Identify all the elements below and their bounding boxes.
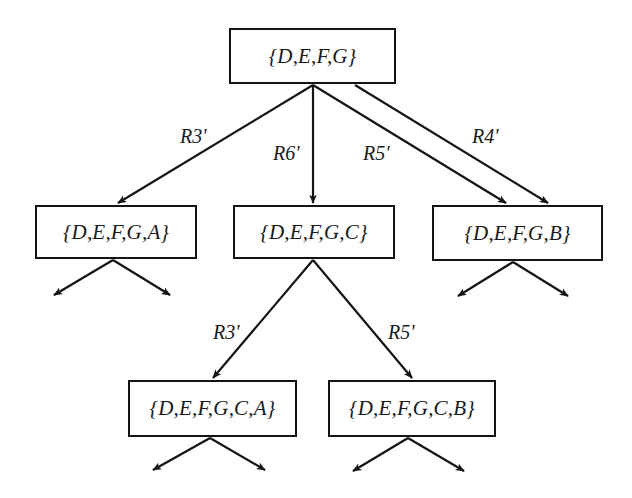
node-cb: {D,E,F,G,C,B}: [328, 380, 496, 437]
edge-label-r3-bottom: R3': [213, 322, 240, 342]
stub-ca-right: [210, 438, 265, 470]
node-cb-label: {D,E,F,G,C,B}: [349, 396, 475, 421]
edge-label-r3-top: R3': [180, 126, 207, 146]
stub-b-right: [513, 262, 568, 296]
node-b: {D,E,F,G,B}: [432, 205, 603, 261]
stub-a-right: [113, 260, 170, 295]
node-c: {D,E,F,G,C}: [233, 205, 395, 259]
node-ca: {D,E,F,G,C,A}: [128, 380, 297, 437]
node-a-label: {D,E,F,G,A}: [63, 220, 169, 245]
node-a: {D,E,F,G,A}: [35, 205, 197, 259]
edge-c-to-ca: [213, 260, 313, 378]
stub-cb-right: [408, 438, 464, 471]
edge-c-to-cb: [313, 260, 412, 378]
node-c-label: {D,E,F,G,C}: [260, 220, 367, 245]
node-ca-label: {D,E,F,G,C,A}: [150, 396, 276, 421]
stub-ca-left: [153, 438, 210, 470]
stub-cb-left: [353, 438, 408, 471]
node-root-label: {D,E,F,G}: [269, 44, 357, 69]
node-b-label: {D,E,F,G,B}: [464, 221, 570, 246]
search-tree-diagram: {D,E,F,G} {D,E,F,G,A} {D,E,F,G,C} {D,E,F…: [0, 0, 632, 498]
stub-b-left: [458, 262, 513, 296]
edge-label-r5-bottom: R5': [388, 322, 415, 342]
stub-a-left: [54, 260, 113, 295]
node-root: {D,E,F,G}: [229, 28, 396, 84]
edge-label-r4-top: R4': [472, 126, 499, 146]
edge-label-r6-top: R6': [273, 143, 300, 163]
edge-label-r5-top: R5': [363, 143, 390, 163]
